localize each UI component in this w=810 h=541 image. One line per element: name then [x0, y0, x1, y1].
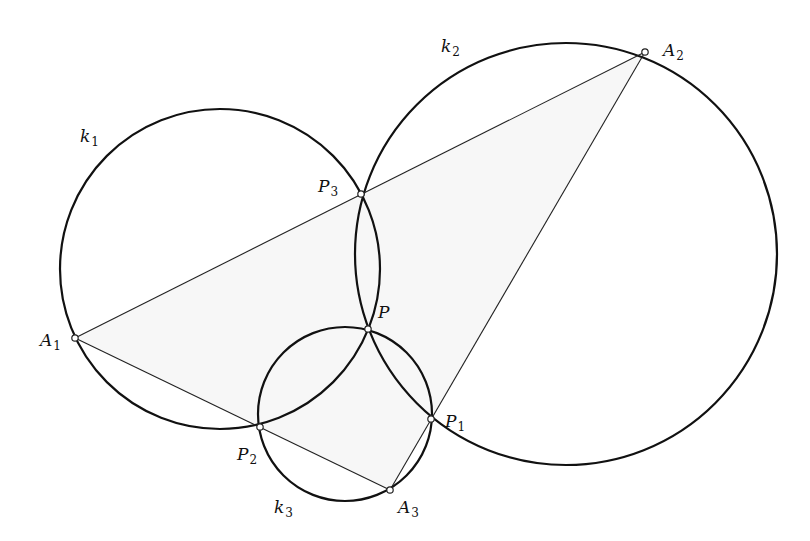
- label-p1: P1: [444, 411, 465, 434]
- point-p3: [358, 191, 364, 197]
- label-k2: k2: [441, 36, 460, 59]
- point-a1: [72, 335, 78, 341]
- label-a1: A1: [38, 330, 61, 353]
- label-p: P: [377, 302, 390, 322]
- point-p1: [428, 416, 434, 422]
- label-a2: A2: [661, 40, 684, 63]
- point-p2: [257, 424, 263, 430]
- label-a3: A3: [396, 497, 419, 520]
- label-p2: P2: [236, 444, 257, 467]
- point-a2: [642, 49, 648, 55]
- label-p3: P3: [317, 176, 338, 199]
- triangle-shading: [75, 52, 645, 490]
- label-k1: k1: [80, 126, 99, 149]
- label-k3: k3: [274, 497, 293, 520]
- point-a3: [387, 487, 393, 493]
- point-p: [365, 326, 371, 332]
- miquel-diagram: k1k2k3A1A2A3P1P2P3P: [0, 0, 810, 541]
